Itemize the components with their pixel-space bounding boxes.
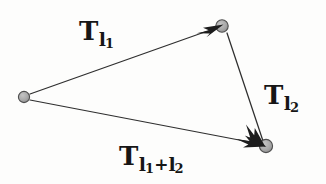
edge-label-t-sum-subsub-a: 1 bbox=[145, 161, 154, 176]
edge-label-t-sum-subsub-b: 2 bbox=[175, 161, 184, 176]
edge-intermediate-to-terminal-line bbox=[227, 33, 263, 141]
edge-label-t-sum-operator: + bbox=[154, 154, 168, 174]
edge-label-t-l2-subsub: 2 bbox=[290, 100, 299, 115]
transformation-diagram: Tl1 Tl2 Tl1+l2 bbox=[0, 0, 326, 184]
edge-origin-to-intermediate-line bbox=[30, 28, 216, 94]
edge-label-t-l1: Tl1 bbox=[79, 18, 114, 50]
edge-label-t-l2: Tl2 bbox=[264, 82, 299, 114]
node-group bbox=[18, 20, 272, 153]
edge-origin-to-terminal-line bbox=[30, 100, 260, 144]
edge-label-t-l1-subsub: 1 bbox=[105, 36, 114, 51]
edge-label-t-l1-plus-l2: Tl1+l2 bbox=[119, 143, 184, 175]
edge-label-t-l1-base: T bbox=[79, 16, 99, 46]
origin-node bbox=[18, 91, 29, 102]
edge-group bbox=[30, 28, 263, 144]
arrowhead-group bbox=[197, 25, 267, 148]
edge-label-t-l2-base: T bbox=[264, 80, 284, 110]
edge-label-t-sum-base: T bbox=[119, 141, 139, 171]
